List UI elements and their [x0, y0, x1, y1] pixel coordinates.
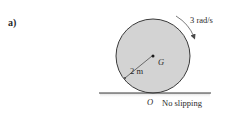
- center-label: G: [158, 57, 164, 67]
- no-slipping-label: No slipping: [162, 98, 203, 108]
- radius-label: 2 m: [130, 66, 143, 76]
- contact-point-label: O: [147, 97, 153, 107]
- radius-tip: [124, 77, 126, 79]
- angular-velocity-label: 3 rad/s: [190, 15, 213, 25]
- part-label: a): [8, 17, 16, 29]
- rolling-disk-diagram: a) 3 rad/s G 2 m O No slipping: [0, 0, 236, 121]
- center-point-dot: [152, 55, 155, 58]
